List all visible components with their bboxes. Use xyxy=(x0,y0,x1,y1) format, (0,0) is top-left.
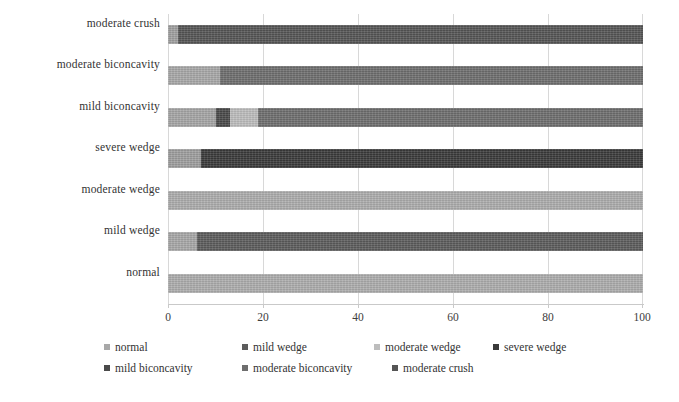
x-tick-label-60: 60 xyxy=(447,309,459,325)
y-axis-category-labels: moderate crush moderate biconcavity mild… xyxy=(8,14,160,304)
bar-row-moderate-crush xyxy=(168,25,643,44)
bar-track xyxy=(168,108,643,127)
legend-label: moderate biconcavity xyxy=(253,361,352,375)
x-tick-mark-100 xyxy=(642,304,643,308)
x-tick-mark-80 xyxy=(548,304,549,308)
legend-item-severe-wedge[interactable]: severe wedge xyxy=(493,340,566,354)
x-tick-mark-0 xyxy=(168,304,169,308)
segment-normal xyxy=(168,66,220,85)
legend-label: moderate wedge xyxy=(385,340,461,354)
x-tick-label-20: 20 xyxy=(257,309,269,325)
y-axis-label-mild-biconcavity: mild biconcavity xyxy=(8,97,160,116)
legend-item-mild-biconcavity[interactable]: mild biconcavity xyxy=(104,361,193,375)
y-axis-label-severe-wedge: severe wedge xyxy=(8,138,160,157)
x-tick-mark-40 xyxy=(358,304,359,308)
bar-row-severe-wedge xyxy=(168,149,643,168)
y-axis-label-mild-wedge: mild wedge xyxy=(8,221,160,240)
y-axis-label-moderate-wedge: moderate wedge xyxy=(8,180,160,199)
segment-moderate-biconcavity xyxy=(258,108,643,127)
segment-normal xyxy=(168,274,643,293)
bar-track xyxy=(168,149,643,168)
legend-item-moderate-biconcavity[interactable]: moderate biconcavity xyxy=(242,361,352,375)
stacked-bar-chart: moderate crush moderate biconcavity mild… xyxy=(0,0,679,402)
bar-row-moderate-biconcavity xyxy=(168,66,643,85)
legend-swatch-icon xyxy=(242,344,248,350)
legend-swatch-icon xyxy=(392,365,398,371)
legend-item-normal[interactable]: normal xyxy=(104,340,148,354)
segment-mild-biconcavity xyxy=(216,108,230,127)
x-tick-label-0: 0 xyxy=(165,309,171,325)
x-tick-label-40: 40 xyxy=(352,309,364,325)
legend-swatch-icon xyxy=(104,344,110,350)
segment-normal xyxy=(168,25,178,44)
bar-track xyxy=(168,191,643,210)
legend-label: normal xyxy=(115,340,148,354)
bar-row-mild-wedge xyxy=(168,232,643,251)
y-axis-label-moderate-crush: moderate crush xyxy=(8,14,160,33)
legend-label: mild wedge xyxy=(253,340,307,354)
bar-row-normal xyxy=(168,274,643,293)
x-axis-line xyxy=(168,304,644,305)
legend-item-moderate-crush[interactable]: moderate crush xyxy=(392,361,474,375)
legend-swatch-icon xyxy=(104,365,110,371)
legend-label: severe wedge xyxy=(504,340,566,354)
legend-swatch-icon xyxy=(493,344,499,350)
bar-track xyxy=(168,232,643,251)
y-axis-label-moderate-biconcavity: moderate biconcavity xyxy=(8,55,160,74)
segment-moderate-wedge xyxy=(230,108,259,127)
legend-label: moderate crush xyxy=(403,361,474,375)
segment-severe-wedge xyxy=(201,149,643,168)
legend-swatch-icon xyxy=(374,344,380,350)
bar-track xyxy=(168,66,643,85)
bar-row-moderate-wedge xyxy=(168,191,643,210)
segment-normal xyxy=(168,108,216,127)
x-tick-label-80: 80 xyxy=(542,309,554,325)
legend-swatch-icon xyxy=(242,365,248,371)
bar-track xyxy=(168,274,643,293)
segment-moderate-biconcavity xyxy=(220,66,643,85)
bar-track xyxy=(168,25,643,44)
segment-normal xyxy=(168,191,643,210)
x-tick-label-100: 100 xyxy=(633,309,650,325)
segment-mild-wedge xyxy=(197,232,644,251)
legend-item-mild-wedge[interactable]: mild wedge xyxy=(242,340,307,354)
bar-row-mild-biconcavity xyxy=(168,108,643,127)
segment-normal xyxy=(168,232,197,251)
x-axis-tick-labels: 0 20 40 60 80 100 xyxy=(168,309,644,325)
segment-moderate-crush xyxy=(178,25,644,44)
x-tick-mark-60 xyxy=(453,304,454,308)
segment-normal xyxy=(168,149,201,168)
y-axis-label-normal: normal xyxy=(8,263,160,282)
legend-item-moderate-wedge[interactable]: moderate wedge xyxy=(374,340,461,354)
x-tick-mark-20 xyxy=(263,304,264,308)
legend-label: mild biconcavity xyxy=(115,361,193,375)
plot-area xyxy=(168,14,643,304)
chart-legend: normal mild wedge moderate wedge severe … xyxy=(104,340,574,384)
